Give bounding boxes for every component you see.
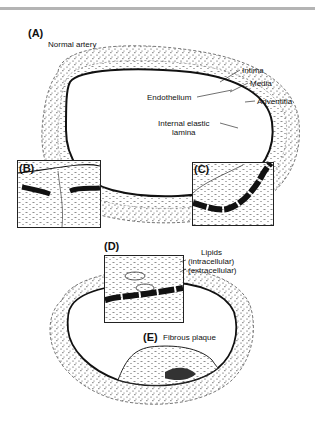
label-adventitia: Adventitia (257, 97, 292, 106)
label-intracellular: (intracellular) (188, 257, 234, 266)
label-lipids: Lipids (201, 248, 222, 257)
inset-d (104, 255, 184, 323)
panel-label-c: (C) (194, 163, 209, 175)
panel-label-d: (D) (104, 240, 119, 252)
panel-label-a: (A) (28, 27, 43, 39)
label-media: Media (250, 79, 272, 88)
normal-artery-title: Normal artery (48, 40, 96, 49)
panel-label-b: (B) (19, 162, 34, 174)
fibrous-plaque-title: Fibrous plaque (163, 333, 216, 342)
panel-label-e: (E) (143, 331, 158, 343)
label-extracellular: (extracellular) (188, 266, 236, 275)
label-intima: Intima (242, 66, 264, 75)
label-endothelium: Endothelium (147, 93, 191, 102)
label-lamina: lamina (172, 128, 196, 137)
label-internal-elastic: Internal elastic (158, 119, 210, 128)
